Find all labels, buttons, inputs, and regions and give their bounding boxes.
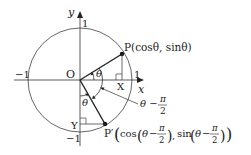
unit-circle-diagram: x y O 1 −1 1 −1 θ θ θ − π 2 P(cosθ, sinθ… — [0, 0, 251, 155]
svg-text:cos: cos — [120, 128, 137, 139]
rotation-label-den: 2 — [160, 106, 166, 116]
svg-text:2: 2 — [212, 135, 217, 145]
y-axis-arrow-icon — [77, 11, 83, 18]
theta-label: θ — [96, 68, 102, 79]
point-p-label: P(cosθ, sinθ) — [124, 41, 192, 53]
y-axis-label: y — [67, 6, 75, 19]
svg-text:π: π — [158, 123, 165, 133]
right-angle-y — [80, 118, 86, 124]
svg-text:θ: θ — [142, 128, 148, 139]
right-angle-x — [116, 74, 122, 80]
point-y-label: Y — [70, 120, 78, 131]
svg-text:): ) — [226, 125, 232, 144]
point-p-prime-prefix: P′ — [104, 127, 114, 139]
svg-text:θ: θ — [195, 128, 201, 139]
rotation-label-pi: π — [159, 94, 167, 104]
rotation-label-theta: θ − — [140, 98, 158, 109]
theta-small-label: θ — [82, 97, 88, 108]
point-x-label: X — [117, 81, 125, 92]
svg-text:2: 2 — [159, 135, 164, 145]
point-p-prime-coords: ( cos ( θ − π 2 ) , sin ( θ − π 2 ) ) — [114, 123, 232, 145]
tick-pos-y: 1 — [82, 18, 88, 29]
x-axis-label: x — [138, 83, 145, 96]
tick-pos-x: 1 — [134, 69, 140, 80]
svg-text:−: − — [149, 128, 157, 139]
tick-neg-y: −1 — [66, 133, 81, 144]
origin-label: O — [66, 68, 75, 81]
svg-text:−: − — [202, 128, 210, 139]
svg-text:,: , — [172, 130, 175, 141]
svg-text:): ) — [220, 128, 225, 144]
svg-text:π: π — [211, 123, 218, 133]
tick-neg-x: −1 — [15, 69, 30, 80]
